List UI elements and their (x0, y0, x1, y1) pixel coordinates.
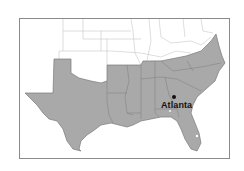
map-frame: Atlanta (19, 18, 230, 159)
map-svg (20, 19, 230, 159)
lake-okeechobee (196, 135, 198, 137)
atlanta-marker-dot (172, 95, 176, 99)
lake-marker (169, 110, 171, 112)
atlanta-label: Atlanta (161, 100, 192, 110)
confederate-region (25, 34, 225, 151)
